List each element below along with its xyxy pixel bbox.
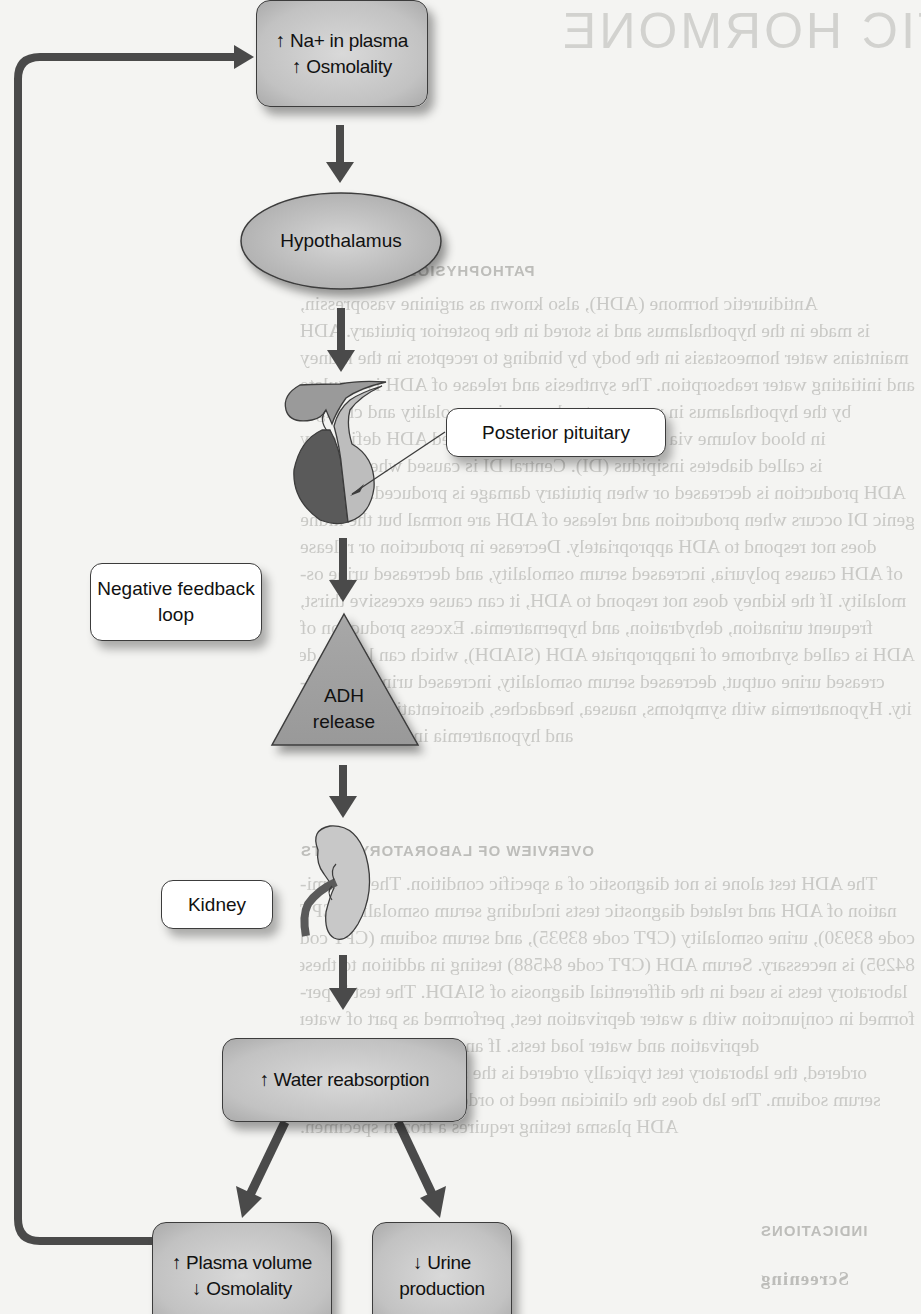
kidney-callout: Kidney bbox=[161, 880, 273, 929]
arrow-down-icon bbox=[329, 538, 357, 602]
kidney-label: Kidney bbox=[188, 892, 246, 918]
adh-release-line2: release bbox=[294, 709, 394, 735]
pituitary-gland-illustration bbox=[285, 381, 445, 523]
urine-production-box: ↓ Urine production bbox=[372, 1222, 512, 1314]
hypothalamus-label: Hypothalamus bbox=[241, 228, 441, 254]
arrow-down-icon bbox=[327, 308, 355, 372]
negative-feedback-line1: Negative feedback bbox=[97, 576, 254, 602]
plasma-volume-line2: ↓ Osmolality bbox=[192, 1276, 292, 1302]
water-reabsorption-box: ↑ Water reabsorption bbox=[222, 1038, 467, 1122]
plasma-volume-line1: ↑ Plasma volume bbox=[172, 1250, 312, 1276]
adh-release-label: ADH release bbox=[294, 683, 394, 735]
adh-release-line1: ADH bbox=[294, 683, 394, 709]
arrow-diagonal-right-icon bbox=[398, 1122, 446, 1218]
posterior-pituitary-label: Posterior pituitary bbox=[482, 420, 630, 446]
arrow-down-icon bbox=[329, 955, 357, 1010]
urine-production-line2: production bbox=[399, 1276, 485, 1302]
negative-feedback-callout: Negative feedback loop bbox=[90, 563, 262, 641]
feedback-loop-arrow bbox=[18, 45, 254, 1241]
arrow-diagonal-left-icon bbox=[236, 1122, 285, 1218]
plasma-volume-box: ↑ Plasma volume ↓ Osmolality bbox=[152, 1222, 332, 1314]
arrow-down-icon bbox=[326, 125, 354, 183]
posterior-pituitary-callout: Posterior pituitary bbox=[446, 408, 666, 457]
urine-production-line1: ↓ Urine bbox=[413, 1250, 471, 1276]
stimulus-box: ↑ Na+ in plasma ↑ Osmolality bbox=[256, 0, 428, 107]
stimulus-line2: ↑ Osmolality bbox=[292, 54, 392, 80]
arrow-down-icon bbox=[329, 765, 357, 818]
kidney-illustration bbox=[304, 826, 369, 940]
stimulus-line1: ↑ Na+ in plasma bbox=[276, 28, 408, 54]
water-reabsorption-label: ↑ Water reabsorption bbox=[260, 1067, 430, 1093]
negative-feedback-line2: loop bbox=[158, 602, 194, 628]
